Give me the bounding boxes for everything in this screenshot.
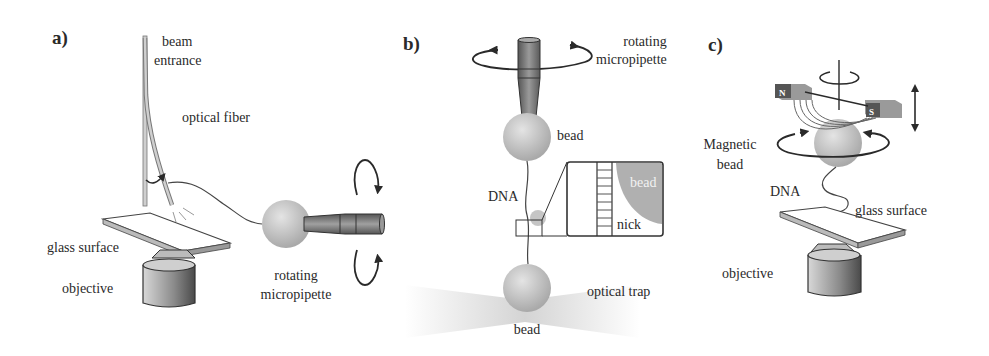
label-bead-top: bead: [557, 128, 583, 144]
nick-inset: [567, 162, 663, 236]
panel-label-b: b): [403, 33, 420, 55]
magnet-s-label: S: [869, 104, 874, 120]
label-optical-trap: optical trap: [587, 284, 650, 300]
label-rotating: rotating: [256, 268, 336, 284]
panel-label-a: a): [52, 27, 68, 49]
rotation-arrow-icon: [355, 250, 379, 285]
label-bead-bottom: bead: [497, 322, 557, 338]
label-nick: nick: [617, 217, 641, 233]
label-optical-fiber: optical fiber: [182, 110, 250, 126]
label-magnetic-bead: bead: [690, 157, 770, 173]
micropipette-a: [304, 214, 382, 234]
dna-strand: [525, 161, 528, 264]
label-magnetic: Magnetic: [690, 137, 770, 153]
label-rotating: rotating: [605, 34, 685, 50]
label-glass-surface: glass surface: [855, 203, 927, 219]
label-dna: DNA: [770, 184, 800, 200]
magnet-n-label: N: [779, 85, 786, 101]
label-dna: DNA: [488, 189, 518, 205]
label-glass-surface: glass surface: [47, 240, 119, 256]
label-beam: beam: [162, 34, 192, 50]
label-entrance: entrance: [154, 53, 201, 69]
figure-drawing: [0, 0, 989, 356]
panel-c-drawing: [775, 60, 915, 296]
rotation-arrow-icon: [355, 160, 379, 195]
panel-label-c: c): [708, 34, 723, 56]
figure-stage: a) beam entrance optical fiber glass sur…: [0, 0, 989, 356]
label-inset-bead: bead: [630, 175, 656, 191]
label-micropipette: micropipette: [246, 287, 346, 303]
panel-a-drawing: [103, 36, 385, 307]
label-objective: objective: [722, 266, 773, 282]
bead-b-top: [503, 113, 551, 161]
bead-a: [262, 200, 310, 248]
dna-strand: [168, 182, 262, 224]
label-objective: objective: [62, 281, 113, 297]
label-micropipette: micropipette: [596, 52, 667, 68]
bead-b-bottom: [503, 264, 551, 312]
